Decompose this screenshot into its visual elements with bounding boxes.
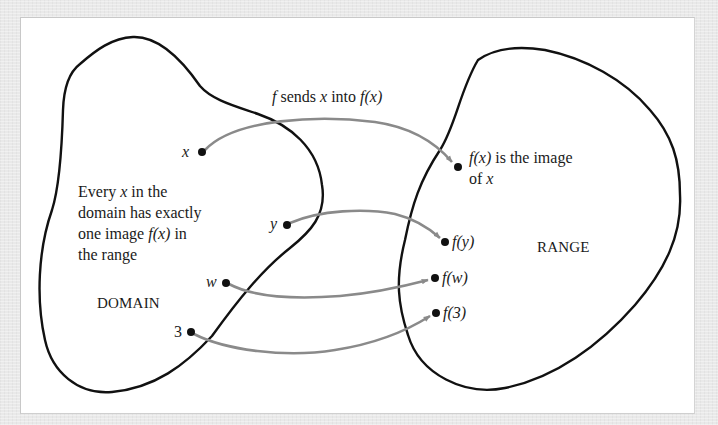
label-3: 3: [174, 321, 182, 342]
domain-note-line-2: domain has exactly: [78, 202, 202, 223]
label-w: w: [206, 271, 217, 292]
arrow-x-to-fx: [205, 119, 452, 162]
label-x: x: [182, 141, 189, 162]
range-set-outline: [399, 48, 680, 390]
domain-note-line-4: the range: [78, 244, 137, 265]
note-text: in: [170, 225, 186, 242]
caption-text-sends: sends: [276, 88, 320, 105]
note-x: x: [486, 170, 493, 187]
note-text: is the image: [491, 149, 572, 166]
point-fy: [441, 238, 449, 246]
caption-fx: f(x): [360, 88, 382, 105]
point-fx: [454, 163, 462, 171]
domain-label: DOMAIN: [97, 293, 160, 314]
label-f3: f(3): [443, 302, 466, 323]
arrow-3-to-f3: [194, 316, 430, 353]
note-text: of: [469, 170, 486, 187]
label-fy: f(y): [452, 231, 474, 252]
image-note-line-1: f(x) is the image: [469, 147, 573, 168]
note-text: one image: [78, 225, 148, 242]
caption-text-into: into: [327, 88, 360, 105]
domain-note-line-3: one image f(x) in: [78, 223, 187, 244]
note-fx: f(x): [148, 225, 170, 242]
point-x: [198, 148, 206, 156]
note-text: Every: [78, 183, 120, 200]
note-fx: f(x): [469, 149, 491, 166]
point-fw: [431, 274, 439, 282]
mapping-caption: f sends x into f(x): [272, 86, 382, 107]
label-y: y: [270, 213, 277, 234]
point-y: [283, 221, 291, 229]
point-f3: [432, 309, 440, 317]
point-3: [187, 328, 195, 336]
domain-note-line-1: Every x in the: [78, 181, 167, 202]
range-label: RANGE: [537, 237, 590, 258]
note-text: in the: [127, 183, 167, 200]
image-note-line-2: of x: [469, 168, 493, 189]
point-w: [222, 279, 230, 287]
label-fw: f(w): [442, 267, 468, 288]
